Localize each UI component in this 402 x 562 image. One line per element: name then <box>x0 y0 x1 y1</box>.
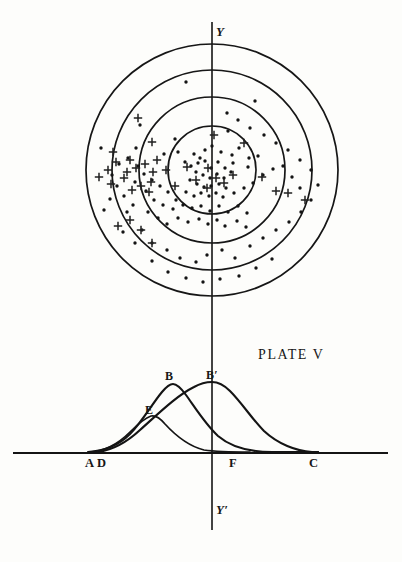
target-dot <box>203 159 206 162</box>
target-dot <box>242 186 245 189</box>
target-dot <box>290 175 293 178</box>
target-dot <box>110 173 113 176</box>
target-dot <box>226 210 229 213</box>
curve-label-b-prime: B′ <box>206 369 218 381</box>
target-dot <box>237 146 240 149</box>
target-plus-mark <box>137 182 145 190</box>
plate-figure: Y Y′ PLATE V B B′ E A D F C <box>0 0 402 562</box>
target-dot <box>192 152 195 155</box>
target-dot <box>245 211 248 214</box>
target-dot <box>126 156 129 159</box>
target-plus-mark <box>145 188 153 196</box>
target-dot <box>220 248 223 251</box>
axis-label-y-prime: Y′ <box>216 503 228 516</box>
target-plus-mark <box>148 239 156 247</box>
target-plus-mark <box>114 222 122 230</box>
target-plus-mark <box>141 160 149 168</box>
baseline-label-c: C <box>309 457 318 470</box>
target-dot <box>214 191 217 194</box>
target-dot <box>254 266 257 269</box>
target-dot <box>281 164 284 167</box>
target-dot <box>134 146 137 149</box>
target-dot <box>219 150 222 153</box>
target-dot <box>232 191 235 194</box>
target-dot <box>236 118 239 121</box>
target-dot <box>248 126 251 129</box>
target-dot <box>205 253 208 256</box>
target-dot <box>207 194 210 197</box>
target-dot <box>270 257 273 260</box>
target-dot <box>274 141 277 144</box>
plate-caption: PLATE V <box>258 348 325 362</box>
target-plus-mark <box>183 163 191 171</box>
target-dot <box>183 160 186 163</box>
target-dot <box>230 153 233 156</box>
target-dot <box>201 280 204 283</box>
target-dot <box>286 148 289 151</box>
target-dot <box>197 217 200 220</box>
target-dot <box>233 256 236 259</box>
target-dot <box>184 80 187 83</box>
target-dot <box>108 197 111 200</box>
target-dot <box>165 222 168 225</box>
target-plus-mark <box>220 179 228 187</box>
target-dot <box>176 216 179 219</box>
target-dot <box>287 220 290 223</box>
target-dot <box>215 218 218 221</box>
target-dot <box>142 172 145 175</box>
target-dot <box>178 256 181 259</box>
target-plus-mark <box>137 226 145 234</box>
target-dot <box>298 186 301 189</box>
target-dot <box>218 277 221 280</box>
target-plus-mark <box>210 131 218 139</box>
target-dot <box>176 150 179 153</box>
target-plus-mark <box>148 138 156 146</box>
target-dot <box>299 210 302 213</box>
target-dot <box>152 198 155 201</box>
target-plus-marks <box>95 114 309 247</box>
target-dot <box>244 225 247 228</box>
target-dot <box>224 186 227 189</box>
baseline-label-d: D <box>97 457 106 470</box>
target-dot <box>199 204 202 207</box>
target-dot <box>188 178 191 181</box>
target-dot <box>146 210 149 213</box>
target-dot <box>246 165 249 168</box>
target-dot <box>256 154 259 157</box>
target-dot <box>206 222 209 225</box>
target-dot <box>136 164 139 167</box>
target-plus-mark <box>128 186 136 194</box>
target-dot <box>133 180 136 183</box>
target-dot <box>125 210 128 213</box>
target-dot <box>115 184 118 187</box>
target-dot <box>184 190 187 193</box>
target-dot <box>150 259 153 262</box>
target-dot <box>261 236 264 239</box>
target-dot <box>217 204 220 207</box>
target-plus-mark <box>212 174 220 182</box>
target-dot <box>225 111 228 114</box>
curve-b-path <box>88 384 318 452</box>
target-plus-mark <box>95 173 103 181</box>
target-dot <box>117 162 120 165</box>
axis-label-y: Y <box>216 25 224 38</box>
target-dot <box>122 194 125 197</box>
target-dot <box>162 152 165 155</box>
target-plus-mark <box>240 139 248 147</box>
target-plus-mark <box>153 156 161 164</box>
target-dot <box>203 148 206 151</box>
target-dot <box>298 158 301 161</box>
target-dot <box>199 191 202 194</box>
target-dot <box>102 208 105 211</box>
target-dot <box>262 133 265 136</box>
target-plus-mark <box>204 164 212 172</box>
target-dot <box>235 219 238 222</box>
target-dot <box>226 129 229 132</box>
target-dot <box>131 203 134 206</box>
target-plus-mark <box>104 166 112 174</box>
baseline-label-a: A <box>85 457 94 470</box>
target-dot <box>156 216 159 219</box>
target-dot <box>196 161 199 164</box>
target-dot <box>194 260 197 263</box>
target-plus-mark <box>109 148 117 156</box>
